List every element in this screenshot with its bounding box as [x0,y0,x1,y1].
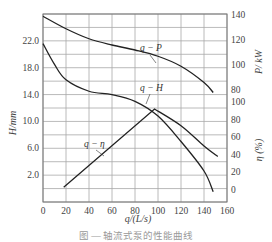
y-tick-label-power: 80 [231,85,241,95]
y-tick-label-head: 6.0 [27,143,39,153]
y-tick-label-efficiency: 80 [231,115,241,125]
grid [43,14,227,202]
curve-q-h [43,44,213,192]
y-tick-label-head: 14.0 [22,90,39,100]
x-tick-label: 120 [174,206,189,216]
y-axis-label-efficiency: η (%) [253,138,265,161]
y-tick-label-efficiency: 20 [231,167,241,177]
curves [43,16,218,192]
x-tick-label: 0 [41,206,46,216]
curve-label-q-h: q − H [140,83,164,93]
y-tick-label-head: 22.0 [22,36,39,46]
y-tick-label-power: 120 [231,35,246,45]
y-tick-label-head: 18.0 [22,63,39,73]
y-tick-label-power: 140 [231,10,246,20]
x-axis-label: q/(L/s) [125,213,152,225]
y-tick-label-head: 2.0 [27,170,39,180]
y-axis-label-head: H/mm [7,111,18,136]
y-tick-label-efficiency: 0 [231,185,236,195]
x-tick-label: 40 [84,206,94,216]
x-tick-label: 160 [220,206,235,216]
x-tick-label: 60 [107,206,117,216]
y-tick-label-efficiency: 100 [231,97,246,107]
x-tick-label: 20 [61,206,71,216]
curve-leader-q-p [150,55,156,63]
figure-caption: 图 — 轴流式泵的性能曲线 [0,228,272,242]
y-tick-label-head: 10.0 [22,116,39,126]
x-tick-label: 140 [197,206,212,216]
y-tick-label-efficiency: 60 [231,132,241,142]
y-tick-label-power: 100 [231,60,246,70]
curve-leader-q-h [146,94,150,104]
y-axis-label-power: P/ kW [253,48,264,75]
curve-label-q-eta: q − η [84,139,105,149]
x-tick-label: 100 [151,206,166,216]
performance-chart: 0204060801001201401602.06.010.014.018.02… [0,0,272,242]
curve-label-q-p: q − P [140,43,162,53]
y-tick-label-efficiency: 40 [231,150,241,160]
